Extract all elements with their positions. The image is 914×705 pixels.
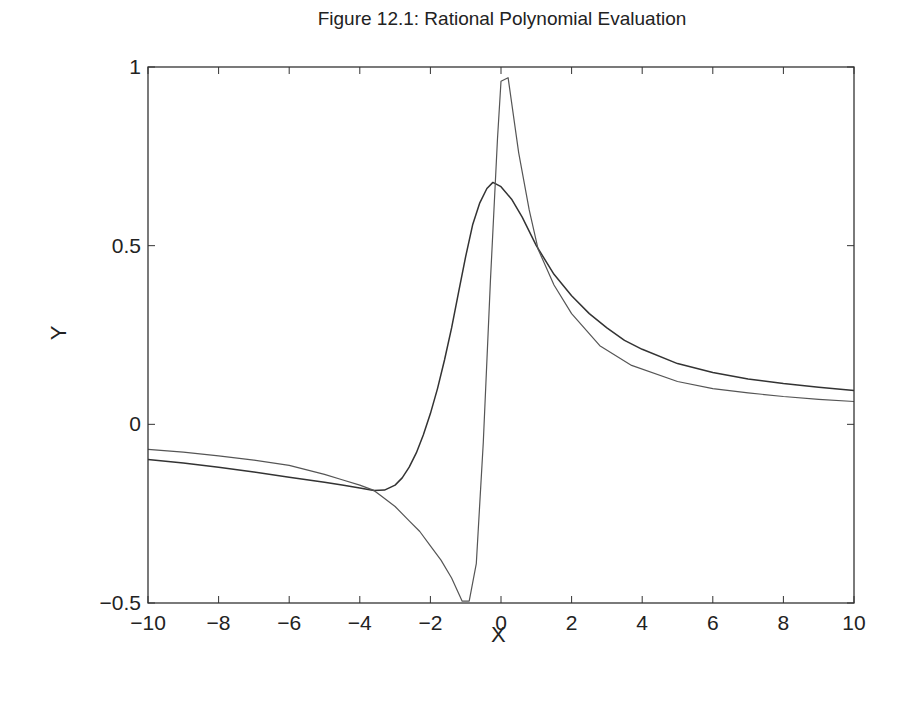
x-tick-label: −2 (418, 611, 442, 634)
x-tick-label: 2 (566, 611, 578, 634)
tick-labels: −10−8−6−4−20246810−0.500.51 (100, 55, 866, 634)
y-axis-label: Y (46, 326, 72, 341)
data-curves (148, 78, 854, 602)
y-tick-label: −0.5 (100, 591, 141, 614)
x-tick-label: −8 (207, 611, 231, 634)
x-tick-label: 10 (842, 611, 865, 634)
x-tick-label: −4 (348, 611, 372, 634)
y-tick-label: 0.5 (112, 234, 141, 257)
figure: Figure 12.1: Rational Polynomial Evaluat… (0, 0, 914, 705)
axes-box (148, 67, 854, 603)
y-tick-label: 1 (129, 55, 141, 78)
x-tick-label: −6 (277, 611, 301, 634)
x-tick-label: 6 (707, 611, 719, 634)
x-tick-label: 4 (636, 611, 648, 634)
axis-ticks (148, 67, 854, 603)
series-line-2 (148, 78, 854, 602)
x-axis-label: X (491, 622, 506, 648)
series-line-1 (148, 182, 854, 490)
x-tick-label: 8 (778, 611, 790, 634)
y-tick-label: 0 (129, 412, 141, 435)
x-tick-label: −10 (130, 611, 166, 634)
plot-area: −10−8−6−4−20246810−0.500.51 (0, 0, 914, 705)
